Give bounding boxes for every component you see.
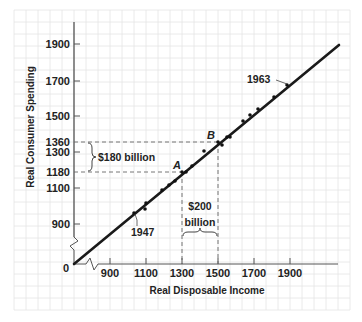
y-tick-label: 900 <box>52 218 70 230</box>
x-tick-label: 1100 <box>134 267 158 279</box>
year-1947-leader <box>135 214 137 226</box>
y-axis-title: Real Consumer Spending <box>25 66 36 188</box>
x-tick-label: 1500 <box>206 267 230 279</box>
point-b-label: B <box>207 129 215 141</box>
delta-income-label-line1: $200 <box>188 200 212 212</box>
x-tick-label: 1300 <box>170 267 194 279</box>
x-ticks <box>110 258 290 264</box>
y-ticks <box>74 44 80 224</box>
y-tick-label: 1900 <box>46 38 70 50</box>
delta-income-label-line2: billion <box>185 216 216 228</box>
year-1947-label: 1947 <box>131 226 155 238</box>
x-tick-label: 1700 <box>242 267 266 279</box>
y-tick-label: 1100 <box>46 182 70 194</box>
y-tick-label: 1180 <box>46 166 70 178</box>
brace-horizontal <box>183 228 217 236</box>
x-axis-title: Real Disposable Income <box>149 285 264 296</box>
x-tick-label: 900 <box>101 267 119 279</box>
y-tick-label: 1500 <box>46 110 70 122</box>
x-tick-label: 1900 <box>278 267 302 279</box>
y-tick-label: 1300 <box>46 146 70 158</box>
y-tick-label: 1700 <box>46 75 70 87</box>
delta-consumption-label: $180 billion <box>98 151 155 163</box>
brace-vertical <box>88 143 96 171</box>
consumption-function-chart: 1900 1700 1500 1360 1300 1180 1100 900 0… <box>0 0 362 322</box>
point-a-label: A <box>172 159 181 171</box>
origin-label: 0 <box>63 262 69 274</box>
year-1963-label: 1963 <box>247 73 271 85</box>
